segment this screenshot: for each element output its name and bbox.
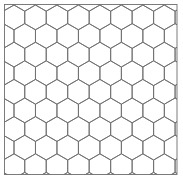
background [0,0,183,179]
hexagon-grid-figure [0,0,183,179]
